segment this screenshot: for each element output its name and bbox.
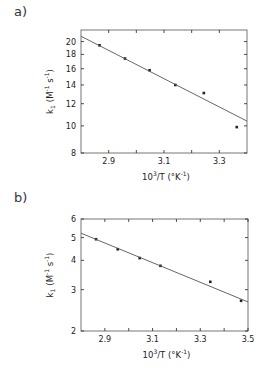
y-tick-label: 18 [66,50,76,59]
plot-frame [81,219,248,331]
x-tick-label: 3.3 [213,157,226,166]
x-axis-label: 103/T (°K-1) [143,348,191,360]
x-tick-label: 2.9 [98,335,111,344]
y-axis-label: k1(M-1 s-1) [43,253,56,298]
x-tick-label: 3.3 [194,335,207,344]
fit-line [81,36,247,121]
plot-frame [81,30,247,153]
data-point [209,281,212,284]
y-tick-label: 3 [71,286,76,295]
x-axis-label: 103/T (°K-1) [142,170,190,182]
data-point [235,126,238,129]
fit-line [81,233,248,302]
y-tick-label: 5 [71,234,76,243]
y-tick-label: 14 [66,81,76,90]
x-tick-label: 3.1 [158,157,171,166]
y-tick-label: 16 [66,65,76,74]
y-tick-label: 20 [66,38,76,47]
y-tick-label: 8 [71,149,76,158]
y-tick-label: 4 [71,256,76,265]
y-axis-label: k1(M-1 s-1) [43,69,56,114]
y-tick-label: 10 [66,122,76,131]
y-tick-label: 2 [71,327,76,336]
data-point [203,92,206,95]
y-tick-label: 6 [71,215,76,224]
x-tick-label: 3.5 [242,335,255,344]
x-tick-label: 3.1 [146,335,159,344]
x-tick-label: 2.9 [102,157,115,166]
y-tick-label: 12 [66,100,76,109]
chart-a: 2.93.13.38101214161820103/T (°K-1)k1(M-1… [0,0,262,186]
chart-b: 2.93.13.33.523456103/T (°K-1)k1(M-1 s-1) [0,186,262,372]
